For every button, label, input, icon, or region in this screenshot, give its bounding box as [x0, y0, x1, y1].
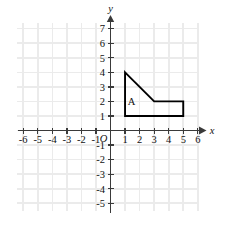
x-tick-label: -5 [33, 134, 42, 145]
x-tick-label: 5 [181, 134, 186, 145]
y-tick-label: 4 [100, 67, 106, 78]
y-tick-label: 3 [100, 82, 105, 93]
y-tick-label: -4 [96, 184, 105, 195]
x-tick-label: 6 [195, 134, 200, 145]
grid-lines [17, 23, 197, 211]
x-tick-label: 3 [152, 134, 157, 145]
axes [18, 22, 199, 213]
shape-labels: A [128, 96, 136, 107]
x-tick-label: -6 [19, 134, 28, 145]
y-tick-label: 7 [100, 23, 105, 34]
x-tick-label: 1 [122, 134, 127, 145]
coordinate-plane-figure: -6-5-4-3-2-1123456-5-4-3-2-11234567 O x … [0, 0, 225, 226]
y-tick-label: -3 [96, 169, 105, 180]
y-tick-label: 5 [100, 53, 105, 64]
coordinate-plane-svg: -6-5-4-3-2-1123456-5-4-3-2-11234567 O x … [0, 0, 225, 226]
origin-label: O [100, 133, 108, 144]
x-tick-label: 2 [137, 134, 142, 145]
y-axis-label: y [107, 3, 113, 14]
y-tick-label: 6 [100, 38, 105, 49]
x-axis-label: x [209, 125, 215, 136]
y-tick-label: 2 [100, 96, 105, 107]
y-tick-label: 1 [100, 111, 105, 122]
x-tick-label: -2 [77, 134, 86, 145]
y-tick-label: -2 [96, 154, 105, 165]
x-tick-label: -3 [62, 134, 71, 145]
y-axis-arrow-icon [107, 15, 114, 22]
x-tick-label: 4 [166, 134, 172, 145]
x-tick-label: -4 [48, 134, 57, 145]
shape-label-a: A [128, 96, 136, 107]
y-tick-label: -5 [96, 198, 105, 209]
